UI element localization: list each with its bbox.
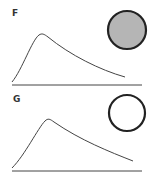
panel-f-circle — [108, 11, 146, 49]
panel-g-circle — [109, 95, 145, 131]
panel-f — [12, 11, 146, 85]
diagram-canvas — [0, 0, 161, 182]
panel-f-curve — [12, 34, 125, 82]
panel-g — [12, 95, 145, 171]
